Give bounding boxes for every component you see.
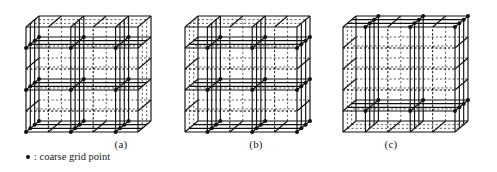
coarse-grid-point bbox=[82, 119, 86, 123]
coarse-grid-point-icon bbox=[26, 155, 30, 159]
coarse-grid-point bbox=[205, 88, 209, 92]
coarse-grid-point bbox=[295, 46, 299, 50]
grid-line-depth bbox=[410, 16, 423, 27]
coarse-grid-point bbox=[304, 39, 308, 43]
coarse-grid-point bbox=[127, 77, 131, 81]
grid-line-depth bbox=[455, 16, 468, 27]
coarse-grid-point bbox=[376, 14, 380, 18]
coarse-grid-point bbox=[308, 119, 312, 123]
figure-root: (a) (b) (c) : coarse grid point bbox=[0, 0, 497, 172]
grid-line-depth bbox=[252, 37, 265, 48]
coarse-grid-point bbox=[214, 123, 218, 127]
cube-panel-c bbox=[343, 14, 470, 132]
grid-line-depth bbox=[71, 16, 84, 27]
coarse-grid-point bbox=[114, 130, 118, 134]
coarse-grid-point bbox=[299, 126, 303, 130]
coarse-grid-point bbox=[299, 84, 303, 88]
grid-line-depth bbox=[116, 121, 129, 132]
coarse-grid-point bbox=[263, 119, 267, 123]
coarse-grid-point bbox=[457, 105, 461, 109]
grid-line-depth bbox=[343, 79, 356, 90]
grid-line-depth bbox=[297, 37, 310, 48]
coarse-grid-point bbox=[263, 35, 267, 39]
grid-line-depth bbox=[71, 79, 84, 90]
coarse-grid-point bbox=[69, 88, 73, 92]
coarse-grid-point bbox=[250, 88, 254, 92]
coarse-grid-point bbox=[33, 39, 37, 43]
grid-line-depth bbox=[343, 58, 356, 69]
coarse-grid-point bbox=[466, 98, 470, 102]
grid-line-depth bbox=[297, 121, 310, 132]
grid-line-depth bbox=[116, 79, 129, 90]
panel-label-b: (b) bbox=[236, 138, 276, 150]
coarse-grid-point bbox=[37, 77, 41, 81]
grid-line-depth bbox=[71, 121, 84, 132]
cube-panel-a bbox=[24, 16, 151, 134]
coarse-grid-point bbox=[205, 46, 209, 50]
grid-line-depth bbox=[343, 37, 356, 48]
coarse-grid-point bbox=[413, 21, 417, 25]
grid-line-depth bbox=[48, 16, 61, 27]
coarse-grid-point bbox=[299, 42, 303, 46]
grid-line-depth bbox=[138, 79, 151, 90]
coarse-grid-point bbox=[255, 126, 259, 130]
grid-line-depth bbox=[433, 121, 446, 132]
grid-line-depth bbox=[455, 58, 468, 69]
coarse-grid-point bbox=[33, 123, 37, 127]
grid-line-depth bbox=[116, 37, 129, 48]
grid-line-depth bbox=[138, 37, 151, 48]
coarse-grid-point bbox=[250, 46, 254, 50]
coarse-grid-point bbox=[259, 123, 263, 127]
coarse-grid-point bbox=[118, 126, 122, 130]
coarse-grid-point bbox=[127, 35, 131, 39]
grid-line-depth bbox=[365, 100, 378, 111]
grid-line-depth bbox=[93, 16, 106, 27]
coarse-grid-point bbox=[308, 77, 312, 81]
grid-line-depth bbox=[116, 16, 129, 27]
grid-line-depth bbox=[26, 100, 39, 111]
coarse-grid-point bbox=[363, 25, 367, 29]
grid-line-depth bbox=[343, 16, 356, 27]
grid-line-depth bbox=[365, 121, 378, 132]
coarse-grid-point bbox=[408, 25, 412, 29]
coarse-grid-point bbox=[368, 21, 372, 25]
grid-line-depth bbox=[455, 37, 468, 48]
grid-line-depth bbox=[297, 58, 310, 69]
coarse-grid-point bbox=[73, 126, 77, 130]
coarse-grid-point bbox=[304, 81, 308, 85]
cube-panel-b bbox=[185, 16, 312, 134]
coarse-grid-point bbox=[295, 130, 299, 134]
grid-line-depth bbox=[207, 37, 220, 48]
coarse-grid-point bbox=[24, 88, 28, 92]
grid-line-depth bbox=[252, 121, 265, 132]
grid-line-depth bbox=[185, 16, 198, 27]
grid-line-depth bbox=[410, 100, 423, 111]
grid-line-depth bbox=[26, 16, 39, 27]
coarse-grid-point bbox=[77, 123, 81, 127]
grid-line-depth bbox=[388, 16, 401, 27]
coarse-grid-point bbox=[69, 46, 73, 50]
coarse-grid-point bbox=[466, 14, 470, 18]
grid-line-depth bbox=[185, 37, 198, 48]
coarse-grid-point bbox=[417, 18, 421, 22]
grid-line-depth bbox=[207, 79, 220, 90]
grid-line-depth bbox=[138, 100, 151, 111]
coarse-grid-point bbox=[37, 119, 41, 123]
coarse-grid-point bbox=[114, 88, 118, 92]
coarse-grid-point bbox=[421, 98, 425, 102]
grid-line-depth bbox=[185, 100, 198, 111]
grid-line-depth bbox=[455, 79, 468, 90]
grid-line-depth bbox=[252, 79, 265, 90]
grid-line-depth bbox=[185, 58, 198, 69]
grid-line-depth bbox=[455, 121, 468, 132]
grid-line-depth bbox=[230, 16, 243, 27]
grid-line-depth bbox=[138, 58, 151, 69]
coarse-grid-point bbox=[82, 35, 86, 39]
coarse-grid-point bbox=[250, 130, 254, 134]
coarse-grid-point bbox=[304, 123, 308, 127]
grid-line-depth bbox=[26, 121, 39, 132]
coarse-grid-point bbox=[421, 14, 425, 18]
coarse-grid-point bbox=[218, 77, 222, 81]
coarse-grid-point bbox=[69, 130, 73, 134]
grid-line-depth bbox=[297, 79, 310, 90]
